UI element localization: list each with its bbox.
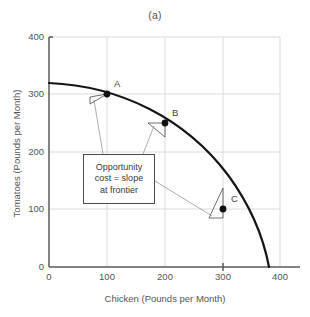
production-possibilities-frontier-curve (49, 83, 269, 267)
grid-lines (49, 37, 280, 267)
data-point-label-c: C (231, 193, 238, 204)
slope-triangle-c (209, 188, 223, 218)
callout-box: Opportunity cost = slope at frontier (83, 154, 155, 204)
callout-line-2: cost = slope (95, 173, 143, 183)
data-point-label-a: A (114, 78, 120, 89)
leader-line-to-c (155, 181, 212, 216)
callout-text: Opportunity cost = slope at frontier (93, 162, 145, 197)
callout-line-3: at frontier (100, 185, 138, 195)
plot-canvas (0, 0, 310, 317)
callout-line-1: Opportunity (96, 162, 143, 172)
data-point-a (104, 91, 111, 98)
leader-line-to-b (143, 126, 154, 154)
figure-panel-a: (a) Tomatoes (Pounds per Month) Chicken … (0, 0, 310, 317)
leader-line-to-a (94, 100, 103, 154)
data-point-c (220, 206, 227, 213)
data-point-label-b: B (172, 107, 178, 118)
data-point-b (162, 120, 169, 127)
slope-triangle-c-hyp (209, 188, 223, 218)
